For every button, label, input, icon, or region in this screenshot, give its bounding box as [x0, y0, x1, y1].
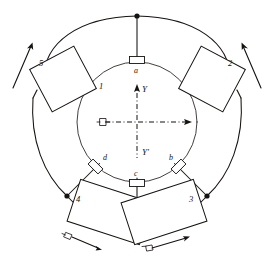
- block-3-group[interactable]: 3: [121, 179, 207, 244]
- motion-arrow-5: [13, 43, 33, 89]
- axis-label-Yprime: Y': [142, 147, 150, 157]
- spoke-block5-lower: [33, 90, 37, 98]
- block-2[interactable]: [179, 46, 246, 112]
- motion-arrow-4-tail: [62, 233, 72, 240]
- outer-arc-right: [207, 98, 241, 196]
- terminal-label-c: c: [134, 169, 138, 178]
- block-3-label: 3: [188, 194, 193, 204]
- motion-arrow-3-tail: [142, 245, 153, 251]
- terminal-pad-d: [88, 159, 103, 174]
- block-3[interactable]: [121, 179, 207, 244]
- terminal-pad-a: [130, 57, 145, 64]
- block-2-group[interactable]: 2: [179, 46, 246, 112]
- terminal-label-d: d: [103, 153, 108, 162]
- terminal-pad-d-group: [88, 159, 103, 174]
- terminal-label-a: a: [134, 66, 138, 75]
- terminal-pad-b: [171, 159, 186, 174]
- axes-group: Y Y': [97, 84, 192, 158]
- motion-arrow-4: [62, 233, 102, 251]
- node-lower-right: [204, 193, 209, 198]
- spoke-block2-lower: [237, 90, 241, 98]
- schematic-svg: 1 a c d b Y: [0, 0, 275, 260]
- axis-vertical-arrowhead-up: [134, 84, 140, 92]
- node-lower-left: [64, 193, 69, 198]
- figure-canvas: 1 a c d b Y: [0, 0, 275, 260]
- terminal-pad-c: [130, 180, 145, 187]
- inner-circle-label: 1: [99, 81, 103, 91]
- block-5-label: 5: [39, 58, 43, 68]
- block-5-group[interactable]: 5: [30, 46, 97, 112]
- axis-label-Y: Y: [142, 84, 148, 94]
- block-5[interactable]: [30, 46, 97, 112]
- outer-arc-left: [33, 98, 67, 196]
- axis-horizontal-tail-flag: [97, 119, 110, 126]
- terminal-pad-b-group: [171, 159, 186, 174]
- node-top: [134, 13, 139, 18]
- terminal-label-b: b: [169, 153, 173, 162]
- motion-arrow-2: [242, 43, 262, 89]
